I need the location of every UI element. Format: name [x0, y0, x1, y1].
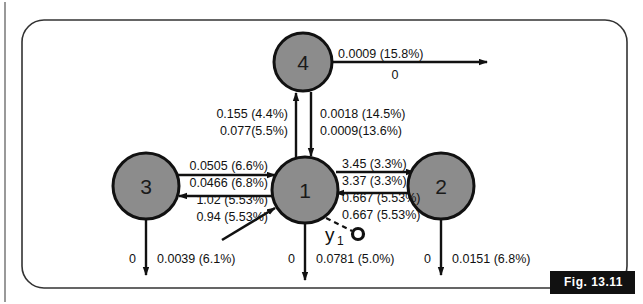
label-node1-to-node2-bottom: 3.37 (3.3%)	[342, 174, 407, 188]
label-y1: y	[325, 224, 335, 245]
label-node2-to-node1-top: 0.667 (5.53%)	[342, 191, 421, 205]
node-2-label: 2	[435, 175, 447, 198]
label-node4-output-bottom: 0	[392, 68, 399, 82]
label-node3-to-node1-bottom: 0.0466 (6.8%)	[189, 176, 268, 190]
figure-canvas: 3 1 2 4 0.0009 (15.8%) 0 0.155 (4.4%) 0.…	[0, 0, 643, 304]
node-1-label: 1	[299, 179, 311, 202]
label-node4-to-node1-top: 0.0018 (14.5%)	[320, 107, 405, 121]
label-node1-to-node3-bottom: 0.94 (5.53%)	[196, 210, 268, 224]
label-node3-output-left: 0	[129, 252, 136, 266]
label-node2-to-node1-bottom: 0.667 (5.53%)	[342, 208, 421, 222]
label-node3-output-right: 0.0039 (6.1%)	[157, 252, 236, 266]
label-node1-output-right: 0.0781 (5.0%)	[316, 252, 395, 266]
label-node4-to-node1-bottom: 0.0009(13.6%)	[320, 124, 402, 138]
figure-caption-box: Fig. 13.11	[550, 271, 635, 294]
network-diagram: 3 1 2 4 0.0009 (15.8%) 0 0.155 (4.4%) 0.…	[0, 0, 643, 304]
sensor-marker-y1	[353, 229, 364, 240]
label-node3-to-node1-top: 0.0505 (6.6%)	[189, 159, 268, 173]
label-node2-output-left: 0	[424, 252, 431, 266]
figure-caption-text: Fig. 13.11	[564, 275, 623, 289]
label-node4-output-top: 0.0009 (15.8%)	[338, 47, 423, 61]
node-3-label: 3	[140, 175, 152, 198]
label-node1-to-node2-top: 3.45 (3.3%)	[342, 157, 407, 171]
label-node1-to-node4-top: 0.155 (4.4%)	[216, 107, 288, 121]
label-node1-to-node3-top: 1.02 (5.53%)	[196, 193, 268, 207]
label-y1-subscript: 1	[337, 234, 344, 248]
label-node1-to-node4-bottom: 0.077(5.5%)	[220, 124, 288, 138]
label-node1-output-left: 0	[288, 252, 295, 266]
node-4-label: 4	[297, 51, 309, 74]
label-node2-output-right: 0.0151 (6.8%)	[452, 252, 531, 266]
